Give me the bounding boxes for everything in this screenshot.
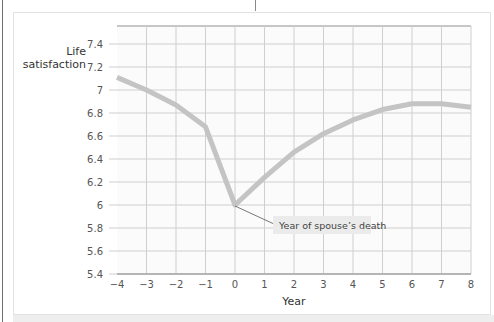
x-tick-label: 0 — [232, 279, 238, 290]
y-tick-label: 6 — [97, 200, 103, 211]
x-tick-label: −3 — [139, 279, 154, 290]
x-tick-label: 5 — [379, 279, 385, 290]
line-chart: 7.47.276.86.66.46.265.85.65.4 −4−3−2−101… — [0, 0, 494, 322]
x-tick-label: 1 — [261, 279, 267, 290]
y-tick-label: 7.2 — [87, 62, 103, 73]
x-tick-label: 4 — [350, 279, 356, 290]
y-tick-label: 5.8 — [87, 223, 103, 234]
x-tick-label: 8 — [468, 279, 474, 290]
x-tick-label: −4 — [110, 279, 125, 290]
y-axis-ticks: 7.47.276.86.66.46.265.85.65.4 — [87, 39, 103, 280]
annotation-text: Year of spouse’s death — [278, 220, 386, 231]
grid-lines — [109, 26, 471, 274]
y-tick-label: 7.4 — [87, 39, 103, 50]
x-tick-label: −2 — [169, 279, 184, 290]
y-tick-label: 7 — [97, 85, 103, 96]
y-tick-label: 6.6 — [87, 131, 103, 142]
x-tick-label: 6 — [409, 279, 415, 290]
y-axis-title-line2: satisfaction — [23, 58, 86, 71]
y-tick-label: 6.2 — [87, 177, 103, 188]
x-tick-label: 2 — [291, 279, 297, 290]
y-tick-label: 5.4 — [87, 269, 103, 280]
x-axis-title: Year — [281, 295, 306, 308]
y-tick-label: 6.4 — [87, 154, 103, 165]
y-tick-label: 5.6 — [87, 246, 103, 257]
y-axis-title-line1: Life — [66, 45, 86, 58]
x-tick-label: −1 — [198, 279, 213, 290]
y-tick-label: 6.8 — [87, 108, 103, 119]
x-tick-label: 7 — [438, 279, 444, 290]
x-axis-ticks: −4−3−2−1012345678 — [110, 279, 475, 290]
x-tick-label: 3 — [320, 279, 326, 290]
